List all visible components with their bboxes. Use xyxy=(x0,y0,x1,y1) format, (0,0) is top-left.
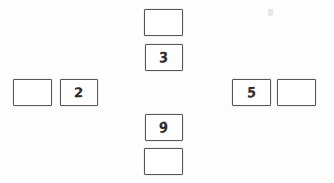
box-bottom-outer[interactable] xyxy=(144,148,183,175)
box-right-inner-value: 5 xyxy=(247,85,256,100)
box-bottom-inner[interactable]: 9 xyxy=(145,114,183,141)
box-top-outer[interactable] xyxy=(144,9,183,36)
worksheet-page: 3 2 5 9 xyxy=(0,0,334,183)
box-bottom-inner-value: 9 xyxy=(159,120,168,136)
box-left-inner-value: 2 xyxy=(74,86,84,100)
box-right-inner[interactable]: 5 xyxy=(232,79,271,106)
box-left-outer[interactable] xyxy=(13,79,52,106)
box-top-inner-value: 3 xyxy=(159,50,168,65)
scan-artifact-speck xyxy=(268,9,273,16)
box-right-outer[interactable] xyxy=(277,79,316,106)
box-left-inner[interactable]: 2 xyxy=(60,79,98,106)
box-top-inner[interactable]: 3 xyxy=(145,44,183,71)
